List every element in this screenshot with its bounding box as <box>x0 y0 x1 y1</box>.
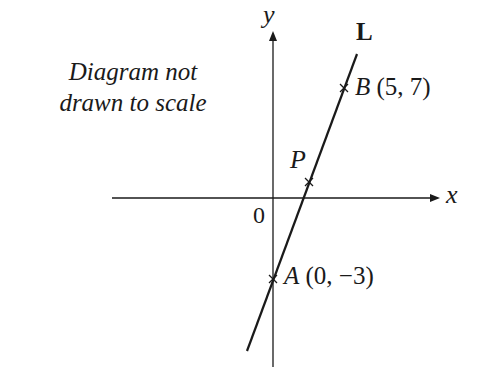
point-b-label: B (5, 7) <box>355 73 431 101</box>
y-axis-label: y <box>263 0 275 30</box>
scale-note-line-1: Diagram not <box>28 56 238 87</box>
line-l-label: L <box>356 18 373 46</box>
y-axis-arrow-icon <box>269 31 277 41</box>
y-axis <box>269 31 277 367</box>
point-b-coords: (5, 7) <box>377 73 431 100</box>
point-b-name: B <box>355 73 370 100</box>
x-axis-arrow-icon <box>430 194 440 202</box>
scale-note-line-2: drawn to scale <box>28 87 238 118</box>
x-axis-label: x <box>446 180 458 210</box>
point-p-label: P <box>290 145 306 175</box>
scale-note: Diagram not drawn to scale <box>28 56 238 118</box>
diagram-canvas: Diagram not drawn to scale y x 0 L B (5,… <box>0 0 480 378</box>
origin-label: 0 <box>253 202 265 229</box>
x-axis <box>112 194 440 202</box>
point-a-coords: (0, −3) <box>306 262 374 289</box>
point-a-name: A <box>284 262 299 289</box>
point-a-label: A (0, −3) <box>284 262 374 290</box>
